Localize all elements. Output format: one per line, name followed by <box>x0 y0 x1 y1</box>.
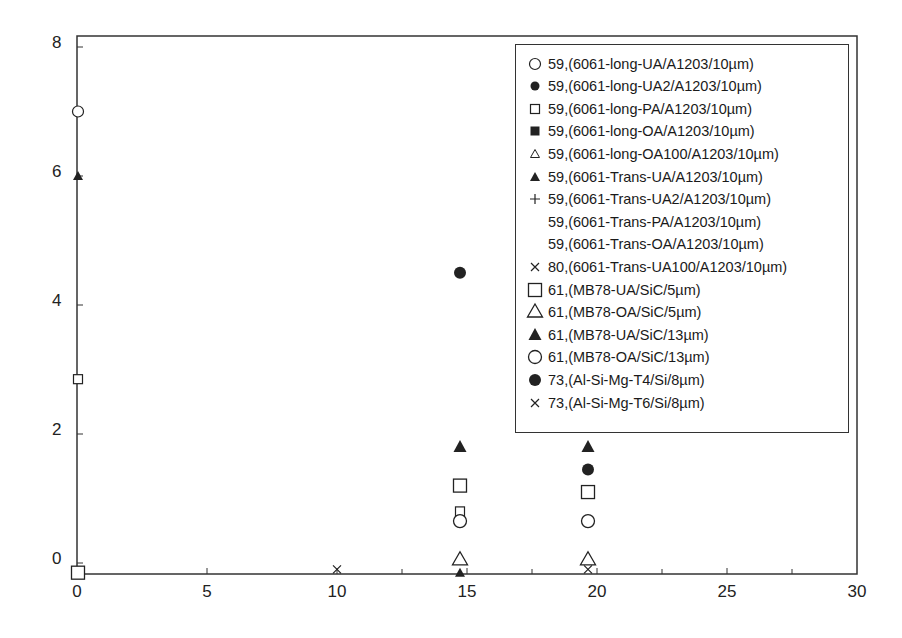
x-tick-label: 20 <box>588 582 607 602</box>
legend-marker-icon <box>522 167 548 187</box>
legend-item: 61,(MB78-UA/SiC/13µm) <box>522 324 709 345</box>
legend-item: 59,(6061-long-OA100/A1203/10µm) <box>522 143 779 164</box>
legend-marker-icon <box>522 144 548 164</box>
legend-item: 73,(Al-Si-Mg-T6/Si/8µm) <box>522 392 705 413</box>
legend-label: 73,(Al-Si-Mg-T4/Si/8µm) <box>548 372 705 388</box>
legend-label: 59,(6061-Trans-UA2/A1203/10µm) <box>548 191 771 207</box>
legend-item: 59,(6061-long-UA/A1203/10µm) <box>522 53 754 74</box>
data-point <box>454 267 466 279</box>
data-point <box>582 515 595 528</box>
legend-item: 61,(MB78-OA/SiC/13µm) <box>522 347 709 368</box>
legend-marker-icon <box>522 234 548 254</box>
data-point <box>582 486 595 499</box>
data-point <box>453 552 468 565</box>
legend-item: 59,(6061-Trans-OA/A1203/10µm) <box>522 234 764 255</box>
legend-label: 59,(6061-long-UA/A1203/10µm) <box>548 56 754 72</box>
legend-item: 59,(6061-Trans-PA/A1203/10µm) <box>522 211 761 232</box>
legend-item: 80,(6061-Trans-UA100/A1203/10µm) <box>522 256 787 277</box>
legend-label: 59,(6061-Trans-PA/A1203/10µm) <box>548 214 761 230</box>
x-tick-label: 25 <box>718 582 737 602</box>
legend-marker-icon <box>522 99 548 119</box>
legend-marker-icon <box>522 325 548 345</box>
legend-item: 61,(MB78-UA/SiC/5µm) <box>522 279 701 300</box>
legend-marker-icon <box>522 212 548 232</box>
data-point <box>74 375 83 384</box>
legend-item: 59,(6061-long-PA/A1203/10µm) <box>522 98 752 119</box>
legend-label: 61,(MB78-UA/SiC/13µm) <box>548 327 709 343</box>
legend-label: 73,(Al-Si-Mg-T6/Si/8µm) <box>548 395 705 411</box>
legend-label: 59,(6061-Trans-OA/A1203/10µm) <box>548 236 764 252</box>
legend-item: 59,(6061-long-OA/A1203/10µm) <box>522 121 755 142</box>
x-tick-label: 0 <box>72 582 81 602</box>
legend-marker-icon <box>522 280 548 300</box>
legend-label: 59,(6061-long-OA/A1203/10µm) <box>548 123 755 139</box>
legend-label: 59,(6061-long-UA2/A1203/10µm) <box>548 78 762 94</box>
legend: 59,(6061-long-UA/A1203/10µm)59,(6061-lon… <box>515 44 849 433</box>
legend-marker-icon <box>522 121 548 141</box>
y-tick-label: 2 <box>52 420 61 440</box>
data-point <box>73 106 84 117</box>
legend-marker-icon <box>522 189 548 209</box>
legend-label: 80,(6061-Trans-UA100/A1203/10µm) <box>548 259 787 275</box>
data-point <box>581 552 596 565</box>
data-point <box>454 440 467 452</box>
legend-item: 59,(6061-long-UA2/A1203/10µm) <box>522 76 762 97</box>
data-point <box>72 566 85 579</box>
legend-marker-icon <box>522 54 548 74</box>
legend-label: 61,(MB78-OA/SiC/13µm) <box>548 349 709 365</box>
data-point <box>454 515 467 528</box>
data-point <box>582 463 594 475</box>
data-point <box>582 440 595 452</box>
legend-label: 59,(6061-long-OA100/A1203/10µm) <box>548 146 779 162</box>
legend-marker-icon <box>522 257 548 277</box>
y-tick-label: 6 <box>52 162 61 182</box>
x-tick-label: 10 <box>328 582 347 602</box>
legend-label: 61,(MB78-UA/SiC/5µm) <box>548 282 701 298</box>
legend-label: 59,(6061-long-PA/A1203/10µm) <box>548 101 752 117</box>
legend-item: 59,(6061-Trans-UA2/A1203/10µm) <box>522 189 771 210</box>
legend-marker-icon <box>522 76 548 96</box>
y-tick-label: 4 <box>52 291 61 311</box>
x-tick-label: 15 <box>458 582 477 602</box>
data-point <box>584 565 592 573</box>
x-tick-label: 30 <box>848 582 867 602</box>
x-tick-label: 5 <box>202 582 211 602</box>
y-tick-label: 8 <box>52 33 61 53</box>
legend-marker-icon <box>522 370 548 390</box>
data-point <box>455 568 465 577</box>
legend-item: 61,(MB78-OA/SiC/5µm) <box>522 302 701 323</box>
legend-item: 59,(6061-Trans-UA/A1203/10µm) <box>522 166 763 187</box>
legend-marker-icon <box>522 393 548 413</box>
legend-label: 59,(6061-Trans-UA/A1203/10µm) <box>548 169 763 185</box>
data-point <box>454 479 467 492</box>
y-tick-label: 0 <box>52 549 61 569</box>
legend-item: 73,(Al-Si-Mg-T4/Si/8µm) <box>522 369 705 390</box>
legend-marker-icon <box>522 302 548 322</box>
legend-marker-icon <box>522 347 548 367</box>
legend-label: 61,(MB78-OA/SiC/5µm) <box>548 304 701 320</box>
